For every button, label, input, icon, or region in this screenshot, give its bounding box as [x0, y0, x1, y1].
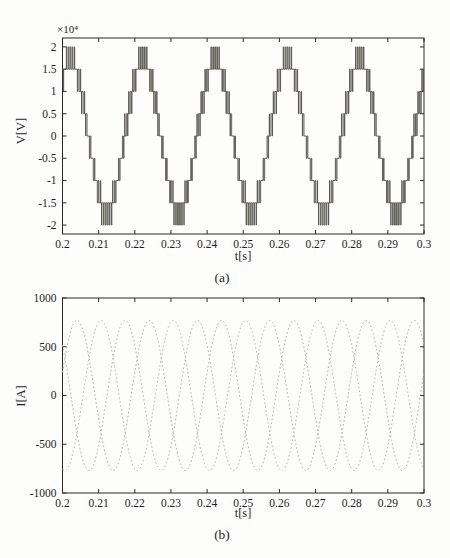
voltage-staircase-waveform [63, 47, 425, 225]
chart-a-y-tick-label: 1.5 [42, 63, 57, 75]
chart-a-x-tick-label: 0.3 [417, 238, 432, 250]
chart-a-caption: (a) [215, 270, 230, 285]
chart-b-y-tick-label: -1000 [30, 487, 57, 499]
chart-a-voltage-plot: 0.20.210.220.230.240.250.260.270.280.290… [38, 38, 431, 250]
two-panel-waveform-figure: 0.20.210.220.230.240.250.260.270.280.290… [0, 0, 450, 558]
chart-a-x-tick-label: 0.2 [55, 238, 70, 250]
chart-b-x-tick-label: 0.23 [161, 497, 181, 509]
chart-b-x-tick-label: 0.29 [378, 497, 398, 509]
chart-a-y-tick-label: 2 [51, 41, 57, 53]
chart-b-x-tick-label: 0.27 [305, 497, 325, 509]
chart-a-x-tick-label: 0.28 [342, 238, 362, 250]
chart-a-y-tick-label: 0 [51, 130, 57, 142]
chart-a-x-tick-label: 0.24 [197, 238, 217, 250]
chart-a-y-tick-label: 1 [51, 85, 57, 97]
chart-b-y-tick-label: 500 [39, 341, 57, 353]
chart-b-plot-frame [63, 298, 425, 493]
chart-a-y-tick-label: -1.5 [38, 197, 56, 209]
chart-b-x-tick-label: 0.26 [269, 497, 289, 509]
chart-b-x-tick-label: 0.3 [417, 497, 432, 509]
chart-a-x-tick-label: 0.21 [89, 238, 109, 250]
chart-b-caption: (b) [214, 527, 230, 542]
phase-c-current-waveform [63, 320, 424, 470]
chart-a-y-tick-label: -0.5 [38, 152, 56, 164]
chart-b-x-tick-label: 0.22 [125, 497, 145, 509]
chart-a-y-tick-label: -1 [47, 174, 57, 186]
chart-b-y-axis-label: I[A] [14, 385, 28, 407]
chart-b-x-tick-label: 0.28 [342, 497, 362, 509]
chart-a-x-tick-label: 0.22 [125, 238, 145, 250]
chart-a-plot-frame [63, 38, 425, 234]
chart-b-x-axis-label: t[s] [235, 506, 252, 520]
chart-b-current-plot: 0.20.210.220.230.240.250.260.270.280.290… [30, 292, 432, 509]
chart-a-x-tick-label: 0.26 [269, 238, 289, 250]
chart-b-x-tick-label: 0.2 [55, 497, 70, 509]
chart-b-y-tick-label: -500 [35, 438, 56, 450]
chart-b-x-tick-label: 0.24 [197, 497, 217, 509]
chart-b-x-tick-label: 0.21 [89, 497, 109, 509]
chart-a-y-axis-multiplier: ×10⁴ [57, 23, 78, 35]
chart-a-x-tick-label: 0.23 [161, 238, 181, 250]
chart-a-y-axis-label: V[V] [14, 118, 28, 144]
chart-b-y-tick-label: 0 [51, 389, 57, 401]
chart-a-x-tick-label: 0.29 [378, 238, 398, 250]
chart-a-y-tick-label: -2 [47, 219, 57, 231]
chart-a-x-axis-label: t[s] [235, 249, 252, 263]
chart-b-y-tick-label: 1000 [34, 292, 57, 304]
figure-page: 0.20.210.220.230.240.250.260.270.280.290… [0, 0, 450, 558]
chart-a-y-tick-label: 0.5 [42, 108, 57, 120]
chart-a-x-tick-label: 0.27 [305, 238, 325, 250]
